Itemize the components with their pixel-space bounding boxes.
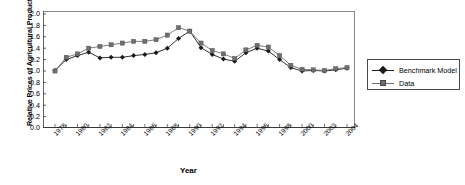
legend-item-benchmark-model[interactable]: Benchmark Model [372,64,457,76]
x-axis-title: Year [180,166,197,175]
legend-item-data[interactable]: Data [372,77,414,89]
chart-figure: 2.01.81.61.41.21.00.80.60.40.20.0 Relati… [0,0,465,185]
data-point [120,41,124,45]
data-point [120,55,125,60]
data-point [64,55,68,59]
data-point [109,55,114,60]
plot-canvas [43,11,355,128]
data-point [75,52,79,56]
data-point [289,63,293,67]
data-point [98,44,102,48]
legend-swatch-square-icon [372,78,394,88]
legend-swatch-diamond-icon [372,65,394,75]
data-point [53,69,57,73]
data-point [199,45,204,50]
data-point [334,67,338,71]
data-point [188,29,192,33]
data-point [199,41,203,45]
data-point [109,43,113,47]
data-point [322,68,326,72]
chart-legend: Benchmark Model Data [367,59,460,90]
data-point [132,39,136,43]
data-point [300,67,304,71]
series-line-benchmark-model [55,31,347,71]
data-point [87,46,91,50]
data-point [278,54,282,58]
data-point [255,43,259,47]
data-point [244,48,248,52]
data-point [266,45,270,49]
data-point [154,50,159,55]
data-point [131,53,136,58]
data-point [221,57,226,62]
data-point [97,55,102,60]
data-point [311,68,315,72]
data-point [210,48,214,52]
data-point [142,52,147,57]
data-point [143,39,147,43]
legend-label-data: Data [399,79,414,88]
data-point [165,33,169,37]
y-axis-title: Relative Prices of Agricultural Products [25,0,34,136]
legend-label-benchmark-model: Benchmark Model [399,66,457,75]
data-point [154,38,158,42]
data-point [176,26,180,30]
data-point [233,56,237,60]
data-point [345,65,349,69]
data-point [221,52,225,56]
